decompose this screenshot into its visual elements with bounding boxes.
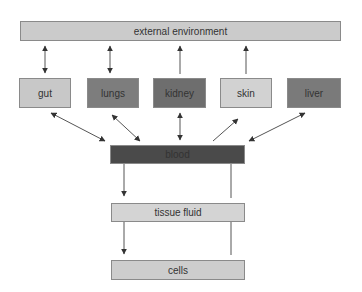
node-label: cells — [168, 265, 188, 276]
node-cells: cells — [111, 260, 245, 280]
arrow-lungs-blood — [112, 115, 140, 141]
node-gut: gut — [19, 78, 71, 108]
node-lungs: lungs — [87, 78, 139, 108]
node-kidney: kidney — [153, 78, 206, 108]
node-liver: liver — [287, 78, 341, 108]
node-external-environment: external environment — [20, 21, 341, 41]
node-label: kidney — [165, 88, 194, 99]
arrow-gut-blood — [51, 113, 105, 141]
node-label: external environment — [134, 26, 227, 37]
node-tissue-fluid: tissue fluid — [111, 203, 245, 222]
node-label: tissue fluid — [154, 207, 201, 218]
node-label: liver — [305, 88, 323, 99]
arrow-blood-skin — [213, 119, 238, 141]
node-label: blood — [165, 149, 189, 160]
node-label: skin — [237, 88, 255, 99]
node-blood: blood — [110, 145, 245, 164]
node-skin: skin — [220, 78, 272, 108]
node-label: lungs — [101, 88, 125, 99]
node-label: gut — [38, 88, 52, 99]
arrow-liver-blood — [249, 113, 305, 141]
